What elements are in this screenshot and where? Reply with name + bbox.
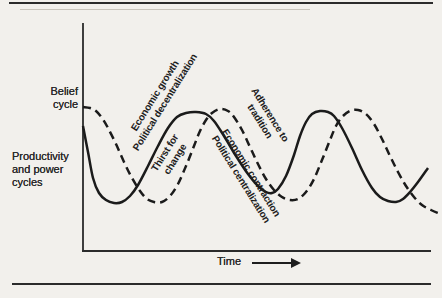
time-axis-label: Time [217,255,241,267]
productivity-power-label: Productivity and power cycles [12,150,86,189]
figure-page: Belief cycle Productivity and power cycl… [0,0,442,298]
belief-cycle-label: Belief cycle [28,85,78,111]
time-arrow-icon [252,262,292,264]
